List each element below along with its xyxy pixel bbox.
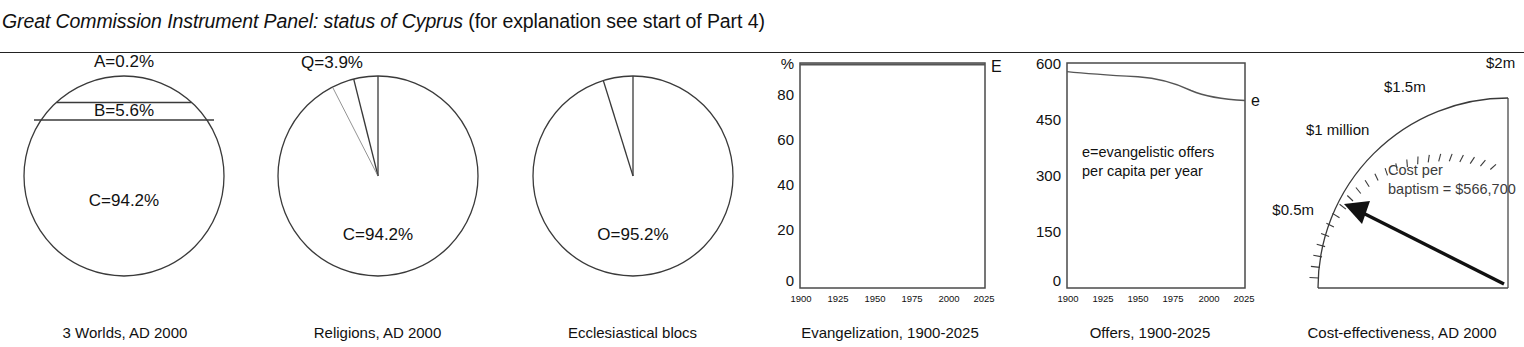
- x-tick-1925: 1925: [827, 293, 848, 304]
- gauge-needle-arrowhead: [1344, 201, 1370, 224]
- chart-caption: Offers, 1900-2025: [1020, 324, 1280, 341]
- chart-caption: Ecclesiastical blocs: [505, 324, 760, 341]
- gauge-note-line-2: baptism = $566,700: [1388, 181, 1516, 197]
- wedge-edge-end: [354, 79, 378, 176]
- pie-label-q: Q=3.9%: [301, 53, 363, 72]
- y-tick-0: 0: [786, 272, 794, 289]
- q-leader-line: [333, 88, 378, 176]
- chart-3-worlds: A=0.2% B=5.6% C=94.2% 3 Worlds, AD 2000: [0, 50, 250, 347]
- chart-caption: 3 Worlds, AD 2000: [0, 324, 250, 341]
- y-tick-0: 0: [1053, 272, 1061, 289]
- pie-3-worlds-svg: A=0.2% B=5.6% C=94.2%: [0, 50, 250, 320]
- offers-svg: 600 450 300 150 0 1900 1925 1950 1975 20…: [1020, 50, 1280, 320]
- gauge-label-1-5m: $1.5m: [1384, 78, 1426, 95]
- x-tick-1900: 1900: [790, 293, 811, 304]
- pie-label-o: O=95.2%: [597, 225, 668, 244]
- gauge-label-1m: $1 million: [1306, 121, 1369, 138]
- pie-label-a: A=0.2%: [94, 52, 154, 71]
- x-tick-2000: 2000: [938, 293, 959, 304]
- chart-ecclesiastical-blocs: O=95.2% Ecclesiastical blocs: [505, 50, 760, 347]
- pie-label-b: B=5.6%: [94, 101, 154, 120]
- chart-caption: Cost-effectiveness, AD 2000: [1280, 324, 1524, 341]
- series-line-e: [1067, 72, 1245, 101]
- series-label-E: E: [991, 58, 1002, 75]
- wedge-edge-end: [603, 81, 633, 177]
- y-tick-100: %: [781, 55, 794, 72]
- evangelization-svg: % 80 60 40 20 0 1900 1925 1950 1975 2000…: [760, 50, 1020, 320]
- page-title: Great Commission Instrument Panel: statu…: [2, 8, 765, 34]
- y-tick-80: 80: [777, 86, 794, 103]
- y-tick-40: 40: [777, 176, 794, 193]
- chart-caption: Evangelization, 1900-2025: [760, 324, 1020, 341]
- chart-cost-effectiveness: $0.5m $1 million $1.5m $2m Cost per bapt…: [1280, 50, 1524, 347]
- x-tick-2025: 2025: [973, 293, 994, 304]
- offers-note-line-1: e=evangelistic offers: [1082, 144, 1214, 160]
- offers-note-line-2: per capita per year: [1082, 163, 1203, 179]
- y-tick-150: 150: [1036, 223, 1061, 240]
- x-tick-1975: 1975: [901, 293, 922, 304]
- x-tick-1925: 1925: [1092, 293, 1113, 304]
- y-tick-20: 20: [777, 221, 794, 238]
- gauge-label-0-5m: $0.5m: [1272, 201, 1314, 218]
- gauge-note-line-1: Cost per: [1388, 162, 1443, 178]
- x-tick-1900: 1900: [1057, 293, 1078, 304]
- series-label-e: e: [1251, 92, 1260, 109]
- plot-frame: [800, 63, 985, 288]
- chart-evangelization: % 80 60 40 20 0 1900 1925 1950 1975 2000…: [760, 50, 1020, 347]
- gauge-needle: [1363, 213, 1504, 284]
- y-tick-60: 60: [777, 131, 794, 148]
- chart-caption: Religions, AD 2000: [250, 324, 505, 341]
- x-tick-1975: 1975: [1162, 293, 1183, 304]
- y-tick-300: 300: [1036, 167, 1061, 184]
- pie-blocs-svg: O=95.2%: [505, 50, 760, 320]
- pie-label-c: C=94.2%: [343, 225, 413, 244]
- gauge-label-2m: $2m: [1486, 54, 1515, 71]
- pie-religions-svg: Q=3.9% C=94.2%: [250, 50, 505, 320]
- chart-offers: 600 450 300 150 0 1900 1925 1950 1975 20…: [1020, 50, 1280, 347]
- page-title-italic: Great Commission Instrument Panel: statu…: [2, 10, 463, 32]
- x-tick-2025: 2025: [1233, 293, 1254, 304]
- panel-header: Great Commission Instrument Panel: statu…: [0, 8, 1524, 38]
- x-tick-1950: 1950: [1127, 293, 1148, 304]
- y-tick-600: 600: [1036, 55, 1061, 72]
- instrument-panel: Great Commission Instrument Panel: statu…: [0, 0, 1524, 347]
- cost-gauge-svg: $0.5m $1 million $1.5m $2m Cost per bapt…: [1280, 50, 1524, 320]
- x-tick-1950: 1950: [864, 293, 885, 304]
- page-title-roman: (for explanation see start of Part 4): [463, 10, 765, 32]
- pie-label-c: C=94.2%: [89, 191, 159, 210]
- y-tick-450: 450: [1036, 111, 1061, 128]
- x-tick-2000: 2000: [1198, 293, 1219, 304]
- chart-religions: Q=3.9% C=94.2% Religions, AD 2000: [250, 50, 505, 347]
